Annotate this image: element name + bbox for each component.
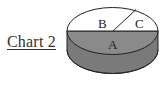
slice-label-a: A [108, 37, 118, 52]
pie-chart-3d: B C A [0, 0, 163, 86]
slice-label-b: B [98, 16, 107, 31]
slice-label-c: C [135, 16, 144, 31]
slice-b [67, 7, 158, 31]
